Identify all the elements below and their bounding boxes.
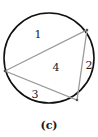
region-label-4: 4 bbox=[53, 61, 60, 74]
figure-caption: (c) bbox=[40, 119, 57, 132]
region-label-1: 1 bbox=[35, 28, 42, 41]
vertex-b bbox=[86, 29, 89, 32]
inscribed-triangle-diagram: 1 2 3 4 (c) bbox=[0, 0, 98, 137]
region-label-2: 2 bbox=[86, 59, 93, 72]
vertex-a bbox=[4, 70, 7, 73]
vertex-c bbox=[76, 99, 79, 102]
region-label-3: 3 bbox=[32, 88, 39, 101]
circle-outline bbox=[4, 13, 94, 103]
